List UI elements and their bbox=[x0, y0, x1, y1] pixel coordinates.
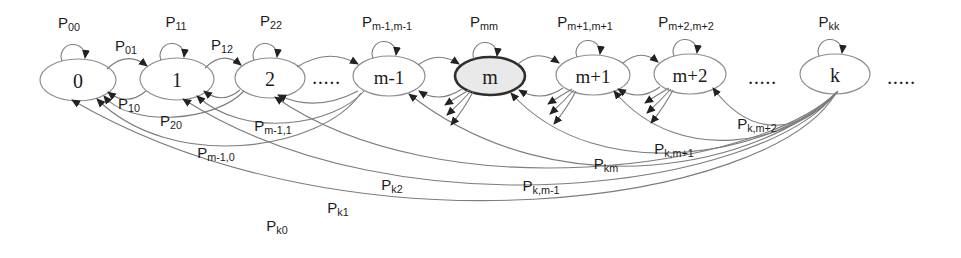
label-pk-m-1: Pk,m-1 bbox=[522, 178, 559, 195]
edge-2-1 bbox=[204, 90, 240, 98]
state-label-1: 1 bbox=[172, 70, 182, 90]
edge-m+1-m bbox=[519, 88, 563, 96]
label-pm-1-1: Pm-1,1 bbox=[254, 118, 292, 135]
label-pkk: Pkk bbox=[819, 14, 840, 31]
state-label-m+2: m+2 bbox=[673, 66, 708, 85]
state-label-m: m bbox=[482, 67, 498, 87]
state-label-k: k bbox=[830, 65, 840, 85]
state-label-2: 2 bbox=[265, 69, 275, 89]
label-pm+2m+2: Pm+2,m+2 bbox=[658, 14, 714, 31]
ellipsis-left: ..... bbox=[313, 72, 342, 87]
state-transition-diagram: 0 1 2 m-1 m m+1 m+2 k ..... ..... ..... … bbox=[0, 0, 961, 258]
diagram-canvas bbox=[0, 0, 961, 258]
edge-m+1-m+2 bbox=[623, 55, 658, 63]
label-pk-m+2: Pk,m+2 bbox=[737, 116, 777, 133]
label-p22: P22 bbox=[260, 13, 282, 30]
label-pk2: Pk2 bbox=[381, 177, 402, 194]
label-p12: P12 bbox=[211, 37, 233, 54]
state-label-m-1: m-1 bbox=[374, 68, 405, 87]
label-p01: P01 bbox=[115, 38, 137, 55]
label-pkm: Pkm bbox=[594, 156, 618, 173]
label-p10: P10 bbox=[118, 96, 140, 113]
label-pm-1-0: Pm-1,0 bbox=[197, 145, 235, 162]
edge-m-1-m bbox=[418, 57, 459, 65]
label-pm-1m-1: Pm-1,m-1 bbox=[362, 14, 412, 31]
edge-m-m+1 bbox=[518, 56, 559, 64]
edge-1-2 bbox=[205, 58, 241, 68]
edge-m+2-m+1 bbox=[618, 87, 660, 95]
label-pmm: Pmm bbox=[470, 14, 498, 31]
edge-m-m-1 bbox=[419, 89, 462, 97]
label-pk0: Pk0 bbox=[266, 218, 287, 235]
state-label-0: 0 bbox=[73, 71, 83, 91]
edge-2-m-1 bbox=[297, 56, 358, 67]
ellipsis-middle: ..... bbox=[749, 72, 778, 87]
label-pk1: Pk1 bbox=[327, 200, 348, 217]
state-label-m+1: m+1 bbox=[576, 67, 611, 86]
label-pm+1m+1: Pm+1,m+1 bbox=[557, 14, 613, 31]
edge-k-1 bbox=[183, 93, 836, 185]
label-p11: P11 bbox=[165, 14, 186, 31]
label-p00: P00 bbox=[58, 15, 80, 32]
label-pk-m+1: Pk,m+1 bbox=[654, 141, 694, 158]
edge-0-1 bbox=[107, 59, 147, 69]
ellipsis-right: ..... bbox=[888, 72, 917, 87]
label-p20: P20 bbox=[160, 113, 182, 130]
